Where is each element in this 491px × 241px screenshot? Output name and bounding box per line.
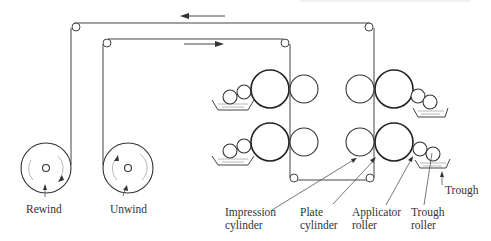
plate-cylinder-label-line2: cylinder: [300, 219, 338, 232]
unwind-reel: [103, 143, 153, 196]
arrow-left-icon: [180, 13, 225, 19]
guide-roller-inner-left: [103, 39, 111, 47]
guide-roller-bottom-right: [366, 174, 374, 182]
rewind-label: Rewind: [26, 203, 62, 215]
trough-label: Trough: [445, 184, 479, 197]
print-unit-right-upper: [346, 70, 448, 117]
impression-cylinder-label-line2: cylinder: [225, 219, 263, 232]
guide-roller-outer-right: [365, 23, 373, 31]
printing-press-diagram: Rewind Unwind Trough Impression cylinder…: [0, 0, 491, 241]
applicator-roller-label-line2: roller: [352, 219, 377, 231]
print-unit-right-lower: [346, 123, 450, 168]
print-unit-left-upper: [212, 70, 318, 110]
print-unit-left-lower: [212, 123, 318, 165]
applicator-roller-label-line1: Applicator: [352, 206, 401, 219]
plate-cylinder-label-line1: Plate: [300, 206, 323, 218]
unwind-label: Unwind: [110, 203, 147, 215]
rewind-reel: [21, 143, 71, 197]
guide-roller-bottom-left: [290, 174, 298, 182]
leader-lines: [272, 153, 444, 210]
impression-cylinder-label-line1: Impression: [225, 206, 276, 219]
trough-roller-label-line1: Trough: [411, 206, 445, 219]
guide-roller-inner-right: [281, 39, 289, 47]
guide-roller-outer-left: [72, 23, 80, 31]
arrow-right-icon: [184, 41, 224, 47]
trough-roller-label-line2: roller: [411, 219, 436, 231]
